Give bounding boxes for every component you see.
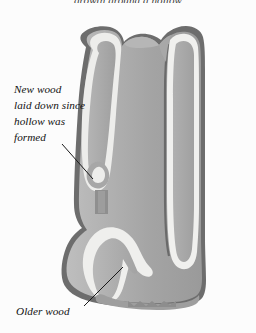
- trunk-illustration: [0, 0, 256, 333]
- lobe-connecting-neck: [95, 190, 108, 214]
- annotation-older-wood: Older wood: [16, 303, 70, 319]
- tree-trunk-hollow-figure: growth around a hollow: [0, 0, 256, 333]
- right-column-new-wood: [167, 34, 199, 269]
- annotation-new-wood: New wood laid down since hollow was form…: [14, 81, 85, 145]
